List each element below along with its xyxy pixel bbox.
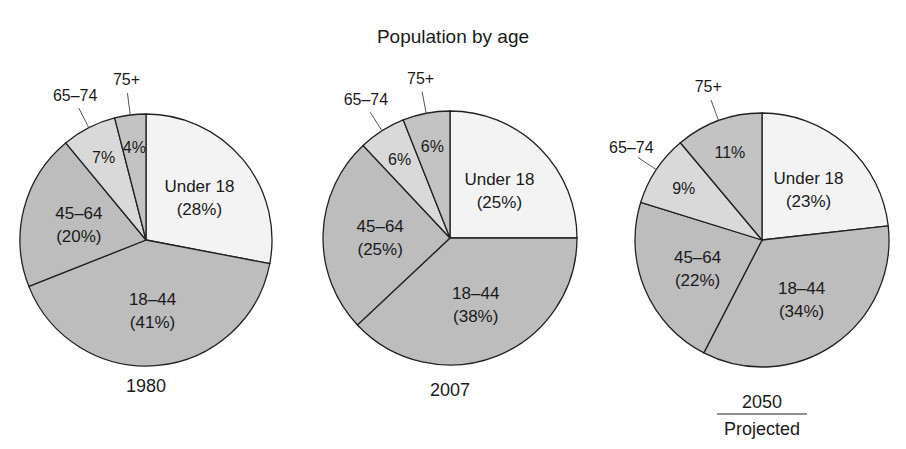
slice-label: 45–64: [357, 217, 404, 236]
pie-1980: Under 18(28%)18–44(41%)45–64(20%)7%65–74…: [20, 71, 272, 396]
leader-line: [370, 112, 382, 131]
slice-value: (25%): [358, 240, 403, 259]
slice-label: Under 18: [464, 170, 534, 189]
slice-outside-label: 75+: [695, 78, 722, 95]
slice-label: 18–44: [452, 284, 499, 303]
pie-2007: Under 18(25%)18–44(38%)45–64(25%)6%65–74…: [323, 70, 577, 400]
pie-year-label: 2050: [742, 392, 782, 412]
pie-year-label: 2007: [430, 380, 470, 400]
slice-value: 6%: [388, 151, 411, 168]
slice-label: 45–64: [55, 204, 102, 223]
slice-label: Under 18: [774, 169, 844, 188]
pie-2050: Under 18(23%)18–44(34%)45–64(22%)9%65–74…: [609, 78, 889, 439]
pie-sublabel: Projected: [724, 419, 800, 439]
slice-outside-label: 65–74: [53, 87, 98, 104]
slice-value: (38%): [453, 307, 498, 326]
slice-value: (34%): [779, 302, 824, 321]
slice-label: 18–44: [778, 279, 825, 298]
leader-line: [422, 92, 426, 114]
slice-value: 7%: [92, 149, 115, 166]
slice-value: 4%: [123, 139, 146, 156]
pie-year-label: 1980: [126, 376, 166, 396]
slice-value: (28%): [177, 200, 222, 219]
slice-value: (23%): [786, 192, 831, 211]
slice-value: 6%: [421, 138, 444, 155]
slice-label: 45–64: [674, 248, 721, 267]
slice-value: 11%: [714, 144, 745, 161]
leader-line: [638, 157, 656, 169]
slice-outside-label: 75+: [113, 71, 140, 88]
slice-value: (25%): [477, 193, 522, 212]
leader-line: [711, 100, 719, 121]
pie-charts: Under 18(28%)18–44(41%)45–64(20%)7%65–74…: [0, 0, 906, 449]
slice-outside-label: 75+: [407, 70, 434, 87]
slice-label: Under 18: [164, 177, 234, 196]
slice-value: (20%): [56, 227, 101, 246]
slice-value: (41%): [130, 313, 175, 332]
slice-outside-label: 65–74: [344, 91, 389, 108]
leader-line: [79, 108, 89, 128]
leader-line: [127, 93, 130, 115]
slice-outside-label: 65–74: [609, 139, 654, 156]
slice-value: 9%: [672, 180, 695, 197]
slice-label: 18–44: [129, 290, 176, 309]
slice-value: (22%): [675, 271, 720, 290]
